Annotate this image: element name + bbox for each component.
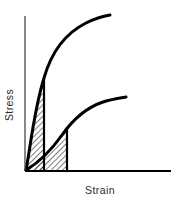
y-axis-label: Stress [3, 89, 15, 121]
x-axis-label: Strain [85, 184, 115, 196]
stress-strain-plot: Stress Strain [0, 0, 181, 206]
stress-strain-figure: Stress Strain [0, 0, 181, 206]
plot-background [0, 0, 181, 206]
